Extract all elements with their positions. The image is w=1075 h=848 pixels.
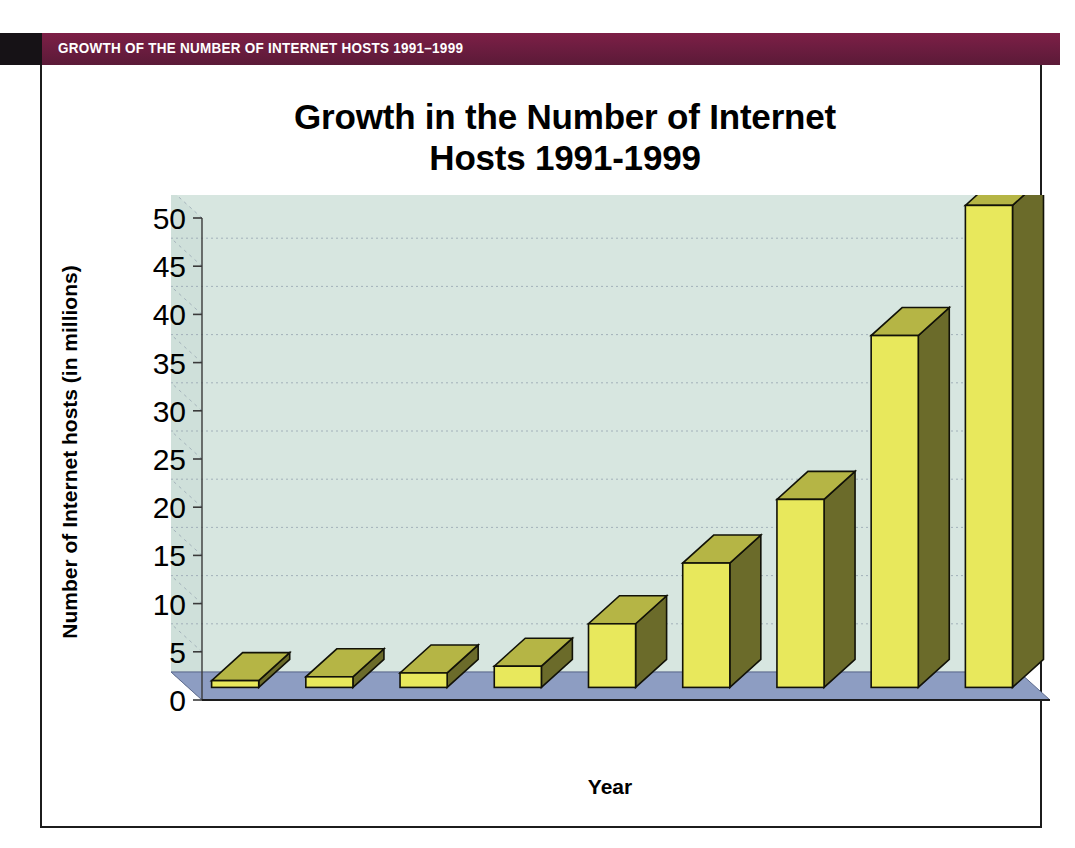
- y-axis-tick-labels: 05101520253035404550: [153, 202, 186, 715]
- y-tick-label: 45: [153, 250, 186, 283]
- x-axis-title: Year: [170, 775, 1050, 799]
- chart-plot-area: 05101520253035404550 1991199219931994199…: [100, 195, 1050, 715]
- chart-title: Growth in the Number of Internet Hosts 1…: [150, 96, 980, 179]
- y-tick-label: 0: [169, 684, 186, 715]
- chart-title-line-1: Growth in the Number of Internet: [150, 96, 980, 137]
- y-tick-label: 25: [153, 443, 186, 476]
- y-tick-label: 50: [153, 202, 186, 235]
- y-tick-label: 10: [153, 588, 186, 621]
- chart-title-line-2: Hosts 1991-1999: [150, 137, 980, 178]
- y-tick-label: 40: [153, 298, 186, 331]
- banner-accent-block: [0, 33, 42, 65]
- y-tick-label: 35: [153, 347, 186, 380]
- y-tick-label: 30: [153, 395, 186, 428]
- y-tick-label: 5: [169, 636, 186, 669]
- y-tick-label: 20: [153, 491, 186, 524]
- y-tick-label: 15: [153, 539, 186, 572]
- bar-chart-svg: 05101520253035404550 1991199219931994199…: [100, 195, 1050, 715]
- banner-title: GROWTH OF THE NUMBER OF INTERNET HOSTS 1…: [58, 39, 463, 57]
- y-axis-title: Number of Internet hosts (in millions): [58, 232, 82, 672]
